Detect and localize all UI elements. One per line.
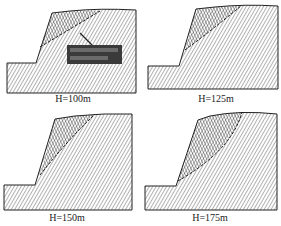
panel-h100	[7, 9, 136, 93]
panel-caption: H=175m	[192, 213, 228, 223]
panel-h125	[148, 5, 278, 89]
slope-stability-figure	[0, 0, 281, 226]
panel-h150	[4, 114, 132, 210]
panel-caption: H=100m	[55, 94, 91, 104]
panel-caption: H=150m	[49, 213, 85, 223]
panel-caption: H=125m	[198, 94, 234, 104]
panel-h175	[145, 112, 277, 210]
annotation-label-box	[67, 45, 122, 64]
